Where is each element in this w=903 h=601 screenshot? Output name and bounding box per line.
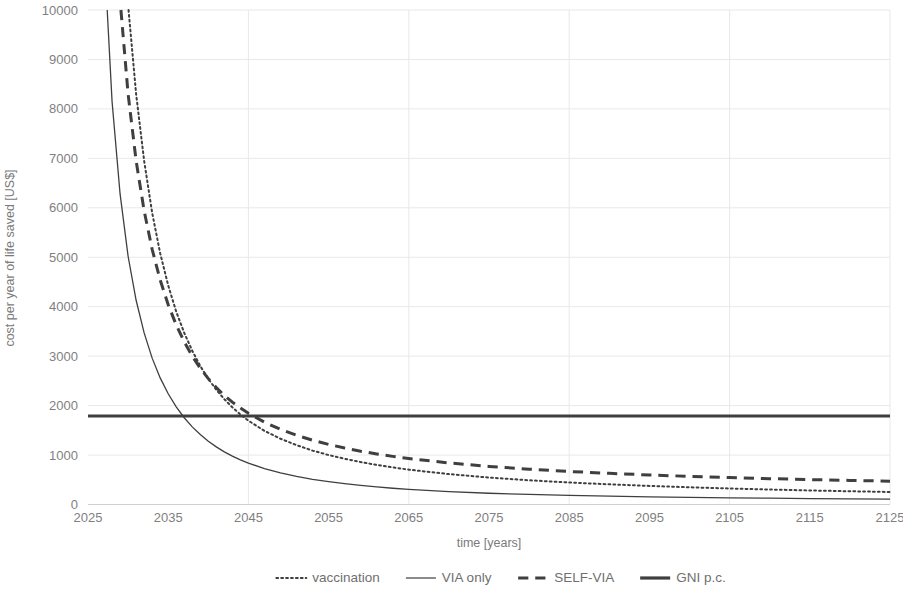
x-tick-label: 2105 — [715, 510, 744, 525]
y-tick-label: 5000 — [49, 250, 78, 265]
x-tick-label: 2095 — [635, 510, 664, 525]
y-tick-label: 4000 — [49, 299, 78, 314]
y-tick-label: 8000 — [49, 101, 78, 116]
x-tick-label: 2125 — [876, 510, 903, 525]
x-tick-label: 2065 — [394, 510, 423, 525]
y-tick-label: 6000 — [49, 200, 78, 215]
y-tick-label: 1000 — [49, 448, 78, 463]
y-tick-label: 7000 — [49, 151, 78, 166]
cost-effectiveness-line-chart: 0100020003000400050006000700080009000100… — [0, 0, 903, 601]
y-tick-label: 9000 — [49, 52, 78, 67]
legend-label: GNI p.c. — [676, 570, 726, 585]
legend-label: vaccination — [312, 570, 380, 585]
y-tick-label: 3000 — [49, 349, 78, 364]
legend-label: VIA only — [442, 570, 492, 585]
y-tick-label: 2000 — [49, 398, 78, 413]
x-tick-label: 2085 — [555, 510, 584, 525]
x-tick-label: 2115 — [796, 510, 824, 525]
x-tick-label: 2055 — [314, 510, 343, 525]
legend-label: SELF-VIA — [554, 570, 614, 585]
x-tick-label: 2045 — [234, 510, 263, 525]
y-tick-label: 10000 — [42, 3, 78, 18]
x-tick-label: 2035 — [154, 510, 183, 525]
y-axis-title: cost per year of life saved [US$] — [3, 169, 17, 346]
x-tick-label: 2025 — [74, 510, 103, 525]
x-axis-title: time [years] — [457, 536, 522, 550]
x-tick-label: 2075 — [475, 510, 504, 525]
